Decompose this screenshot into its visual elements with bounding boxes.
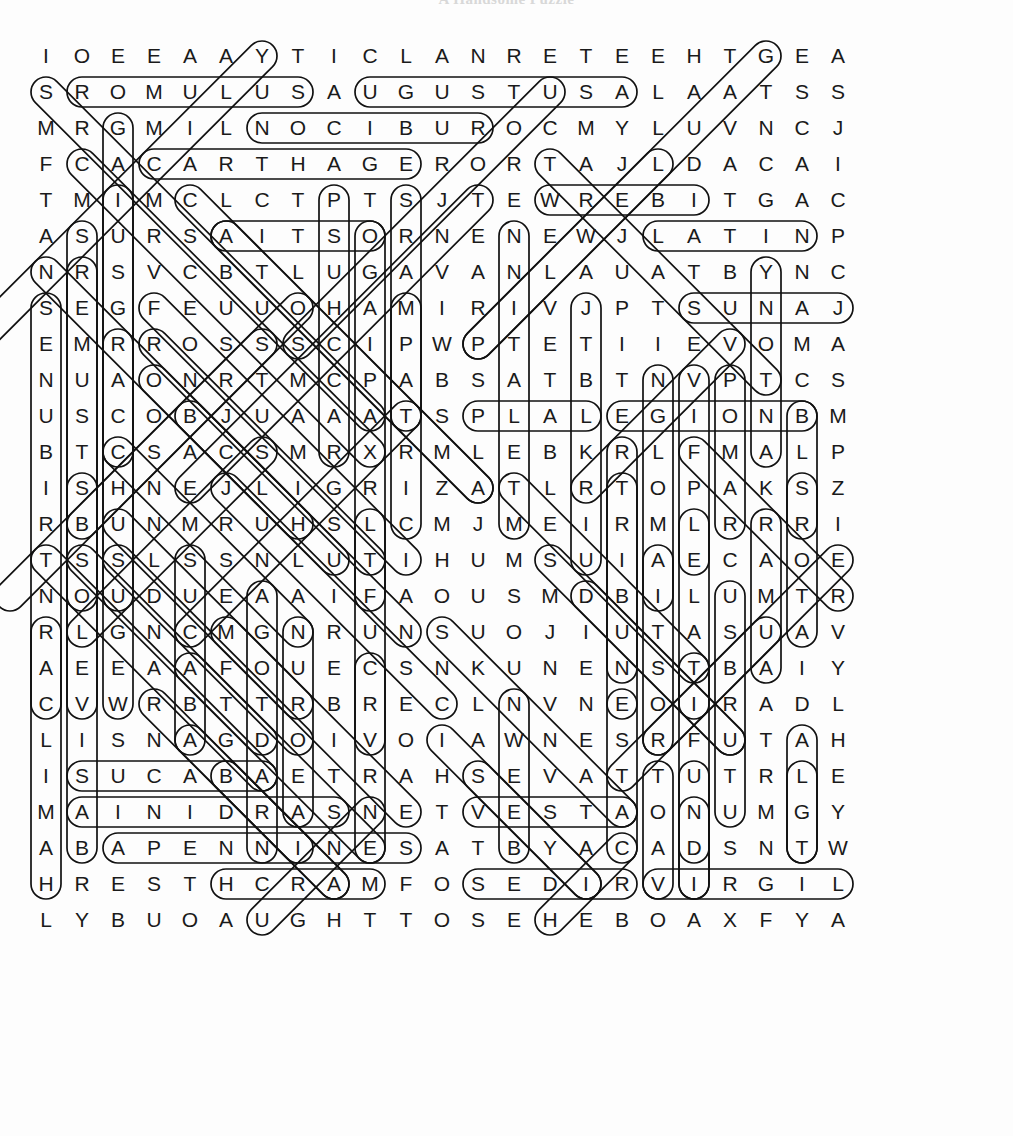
grid-cell[interactable]: T bbox=[784, 830, 820, 866]
grid-cell[interactable]: V bbox=[640, 866, 676, 902]
grid-cell[interactable]: E bbox=[316, 650, 352, 686]
grid-cell[interactable]: O bbox=[136, 362, 172, 398]
grid-cell[interactable]: U bbox=[460, 614, 496, 650]
grid-cell[interactable]: I bbox=[424, 722, 460, 758]
grid-cell[interactable]: E bbox=[604, 182, 640, 218]
grid-cell[interactable]: C bbox=[28, 686, 64, 722]
grid-cell[interactable]: O bbox=[640, 686, 676, 722]
grid-cell[interactable]: T bbox=[172, 866, 208, 902]
grid-cell[interactable]: A bbox=[316, 74, 352, 110]
grid-cell[interactable]: C bbox=[784, 110, 820, 146]
grid-cell[interactable]: E bbox=[676, 326, 712, 362]
grid-cell[interactable]: V bbox=[532, 686, 568, 722]
grid-cell[interactable]: J bbox=[604, 146, 640, 182]
grid-cell[interactable]: T bbox=[496, 470, 532, 506]
grid-cell[interactable]: A bbox=[172, 722, 208, 758]
grid-cell[interactable]: U bbox=[676, 758, 712, 794]
grid-cell[interactable]: T bbox=[208, 686, 244, 722]
grid-cell[interactable]: S bbox=[280, 74, 316, 110]
grid-cell[interactable]: R bbox=[280, 866, 316, 902]
grid-cell[interactable]: K bbox=[460, 650, 496, 686]
grid-cell[interactable]: R bbox=[136, 218, 172, 254]
grid-cell[interactable]: T bbox=[496, 326, 532, 362]
grid-cell[interactable]: U bbox=[604, 614, 640, 650]
grid-cell[interactable]: D bbox=[568, 578, 604, 614]
grid-cell[interactable]: H bbox=[28, 866, 64, 902]
grid-cell[interactable]: T bbox=[712, 182, 748, 218]
grid-cell[interactable]: A bbox=[316, 146, 352, 182]
grid-cell[interactable]: B bbox=[100, 902, 136, 938]
grid-cell[interactable]: R bbox=[604, 434, 640, 470]
grid-cell[interactable]: N bbox=[316, 830, 352, 866]
grid-cell[interactable]: S bbox=[316, 506, 352, 542]
grid-cell[interactable]: B bbox=[712, 254, 748, 290]
grid-cell[interactable]: S bbox=[316, 218, 352, 254]
grid-cell[interactable]: V bbox=[460, 794, 496, 830]
grid-cell[interactable]: T bbox=[244, 686, 280, 722]
grid-cell[interactable]: U bbox=[676, 110, 712, 146]
grid-cell[interactable]: L bbox=[64, 614, 100, 650]
grid-cell[interactable]: A bbox=[568, 758, 604, 794]
grid-cell[interactable]: A bbox=[784, 146, 820, 182]
grid-cell[interactable]: T bbox=[388, 902, 424, 938]
grid-cell[interactable]: C bbox=[820, 254, 856, 290]
grid-cell[interactable]: D bbox=[784, 686, 820, 722]
grid-cell[interactable]: O bbox=[784, 542, 820, 578]
grid-cell[interactable]: C bbox=[136, 758, 172, 794]
grid-cell[interactable]: E bbox=[100, 650, 136, 686]
grid-cell[interactable]: W bbox=[568, 218, 604, 254]
grid-cell[interactable]: Y bbox=[784, 902, 820, 938]
grid-cell[interactable]: T bbox=[568, 794, 604, 830]
grid-cell[interactable]: F bbox=[748, 902, 784, 938]
grid-cell[interactable]: T bbox=[640, 758, 676, 794]
grid-cell[interactable]: S bbox=[28, 74, 64, 110]
grid-cell[interactable]: L bbox=[208, 110, 244, 146]
grid-cell[interactable]: T bbox=[244, 254, 280, 290]
grid-cell[interactable]: A bbox=[172, 146, 208, 182]
grid-cell[interactable]: I bbox=[640, 326, 676, 362]
grid-cell[interactable]: L bbox=[532, 254, 568, 290]
grid-cell[interactable]: S bbox=[64, 758, 100, 794]
grid-cell[interactable]: S bbox=[460, 74, 496, 110]
grid-cell[interactable]: Z bbox=[424, 470, 460, 506]
grid-cell[interactable]: N bbox=[424, 650, 460, 686]
grid-cell[interactable]: H bbox=[208, 866, 244, 902]
grid-cell[interactable]: E bbox=[460, 218, 496, 254]
grid-cell[interactable]: T bbox=[568, 38, 604, 74]
grid-cell[interactable]: V bbox=[532, 758, 568, 794]
grid-cell[interactable]: A bbox=[676, 218, 712, 254]
grid-cell[interactable]: U bbox=[244, 902, 280, 938]
grid-cell[interactable]: B bbox=[172, 686, 208, 722]
grid-cell[interactable]: R bbox=[460, 290, 496, 326]
grid-cell[interactable]: A bbox=[388, 362, 424, 398]
grid-cell[interactable]: T bbox=[28, 182, 64, 218]
grid-cell[interactable]: C bbox=[136, 146, 172, 182]
grid-cell[interactable]: E bbox=[136, 38, 172, 74]
grid-cell[interactable]: D bbox=[136, 578, 172, 614]
grid-cell[interactable]: A bbox=[748, 650, 784, 686]
grid-cell[interactable]: L bbox=[460, 686, 496, 722]
grid-cell[interactable]: S bbox=[784, 470, 820, 506]
grid-cell[interactable]: N bbox=[496, 218, 532, 254]
grid-cell[interactable]: N bbox=[568, 686, 604, 722]
grid-cell[interactable]: G bbox=[316, 470, 352, 506]
grid-cell[interactable]: E bbox=[496, 182, 532, 218]
grid-cell[interactable]: E bbox=[568, 902, 604, 938]
grid-cell[interactable]: M bbox=[28, 794, 64, 830]
grid-cell[interactable]: A bbox=[712, 146, 748, 182]
grid-cell[interactable]: L bbox=[640, 218, 676, 254]
grid-cell[interactable]: E bbox=[352, 830, 388, 866]
grid-cell[interactable]: V bbox=[352, 722, 388, 758]
grid-cell[interactable]: U bbox=[280, 650, 316, 686]
grid-cell[interactable]: N bbox=[748, 830, 784, 866]
grid-cell[interactable]: E bbox=[532, 506, 568, 542]
grid-cell[interactable]: O bbox=[100, 74, 136, 110]
grid-cell[interactable]: I bbox=[568, 614, 604, 650]
grid-cell[interactable]: A bbox=[460, 470, 496, 506]
grid-cell[interactable]: E bbox=[496, 434, 532, 470]
grid-cell[interactable]: T bbox=[604, 758, 640, 794]
grid-cell[interactable]: S bbox=[172, 542, 208, 578]
grid-cell[interactable]: V bbox=[712, 110, 748, 146]
grid-cell[interactable]: S bbox=[136, 866, 172, 902]
grid-cell[interactable]: H bbox=[100, 470, 136, 506]
